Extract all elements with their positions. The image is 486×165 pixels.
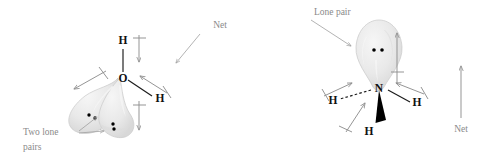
dipole-arrow-lonepair-left bbox=[74, 67, 108, 89]
bond-n-h-front-wedge bbox=[376, 90, 387, 123]
water-diagram: O H H bbox=[23, 20, 227, 152]
dipole-arrow-nh-front bbox=[339, 103, 365, 132]
dipole-arrow-lonepair-down bbox=[133, 101, 146, 130]
electron-dot bbox=[372, 48, 376, 52]
molecular-dipole-figure: O H H bbox=[0, 0, 486, 165]
atom-label-hydrogen-top: H bbox=[119, 34, 128, 46]
atom-label-hydrogen-front: H bbox=[365, 125, 374, 137]
atom-label-oxygen: O bbox=[119, 72, 128, 84]
bond-n-h-left-dashed bbox=[340, 90, 371, 99]
net-dipole-arrow-water bbox=[176, 34, 200, 63]
electron-dot bbox=[87, 113, 90, 116]
electron-dot bbox=[112, 127, 115, 130]
atom-label-hydrogen-right: H bbox=[413, 96, 422, 108]
bond-n-h-right bbox=[388, 90, 410, 102]
net-label-ammonia: Net bbox=[454, 124, 468, 134]
atom-label-hydrogen-left: H bbox=[329, 94, 338, 106]
lone-pair-label-ammonia: Lone pair bbox=[314, 7, 352, 17]
electron-dot bbox=[380, 48, 384, 52]
ammonia-lone-pair-lobe bbox=[356, 20, 402, 91]
atom-label-nitrogen: N bbox=[375, 82, 384, 94]
lone-pair-leader-ammonia bbox=[311, 20, 351, 46]
electron-dot bbox=[111, 122, 114, 125]
net-label-water: Net bbox=[213, 20, 227, 30]
atom-label-hydrogen-right: H bbox=[156, 92, 165, 104]
ammonia-diagram: N H H H bbox=[311, 7, 468, 137]
dipole-arrow-oh-top bbox=[133, 35, 146, 62]
lone-pairs-label-line1: Two lone bbox=[23, 127, 58, 137]
bond-o-h-right bbox=[128, 80, 152, 96]
lone-pairs-label-line2: pairs bbox=[23, 142, 42, 152]
